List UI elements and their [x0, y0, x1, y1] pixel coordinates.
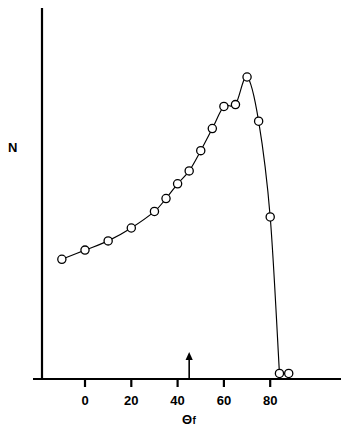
data-point-marker [58, 255, 66, 263]
data-point-marker [255, 117, 263, 125]
data-point-marker [185, 167, 193, 175]
x-axis-ticks [85, 379, 270, 387]
data-point-marker [208, 124, 216, 132]
x-axis-label: Θf [182, 412, 196, 427]
x-axis-label-base: Θ [182, 412, 192, 427]
annotation-arrow [186, 352, 193, 379]
data-point-marker [275, 369, 283, 377]
x-tick-label-40: 40 [170, 393, 184, 408]
axes [33, 8, 341, 379]
data-point-marker [150, 207, 158, 215]
data-point-markers [58, 73, 293, 378]
series-curve-0 [62, 77, 280, 374]
x-tick-label-80: 80 [263, 393, 277, 408]
annotation-arrow-head [186, 352, 193, 360]
plot-canvas: 020406080 [0, 0, 350, 436]
data-point-marker [162, 194, 170, 202]
data-point-marker [104, 237, 112, 245]
data-point-marker [231, 101, 239, 109]
data-point-marker [243, 73, 251, 81]
y-axis-label: N [8, 140, 18, 155]
data-point-marker [220, 102, 228, 110]
data-point-marker [81, 246, 89, 254]
data-point-marker [127, 224, 135, 232]
data-point-marker [197, 147, 205, 155]
x-tick-label-20: 20 [124, 393, 138, 408]
data-point-marker [285, 369, 293, 377]
data-curve [62, 77, 280, 374]
x-tick-label-60: 60 [217, 393, 231, 408]
x-tick-label-0: 0 [81, 393, 88, 408]
chart-figure: 020406080 N Θf [0, 0, 350, 436]
data-point-marker [266, 213, 274, 221]
x-axis-tick-labels: 020406080 [81, 393, 277, 408]
x-axis-label-subscript: f [192, 415, 196, 426]
data-point-marker [174, 180, 182, 188]
